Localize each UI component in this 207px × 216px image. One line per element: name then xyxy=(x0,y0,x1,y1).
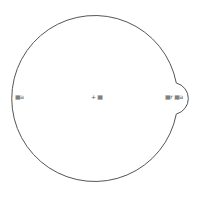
label-right: ▦r ▦a xyxy=(165,93,183,100)
label-left: ▦a xyxy=(15,93,24,100)
diagram-canvas xyxy=(0,0,207,216)
label-center: + ▦ xyxy=(91,93,103,100)
